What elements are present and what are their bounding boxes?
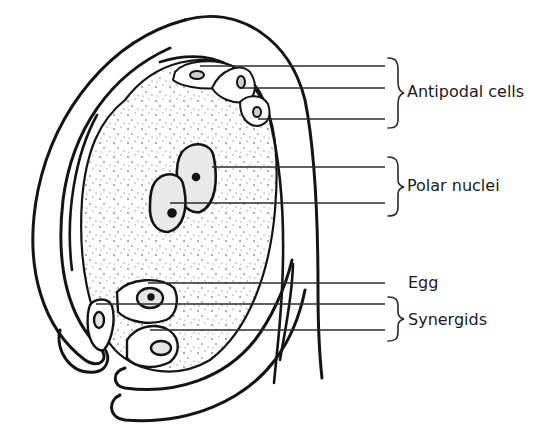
embryo-sac-diagram <box>0 0 549 428</box>
label-egg: Egg <box>408 275 438 291</box>
label-synergids: Synergids <box>408 312 487 328</box>
label-polar-nuclei: Polar nuclei <box>407 178 500 194</box>
braces <box>388 58 404 341</box>
egg-cell <box>117 280 177 323</box>
brace-polar <box>388 157 404 216</box>
label-antipodal-cells: Antipodal cells <box>407 84 524 100</box>
brace-synergids <box>388 297 404 341</box>
brace-antipodal <box>388 58 404 128</box>
